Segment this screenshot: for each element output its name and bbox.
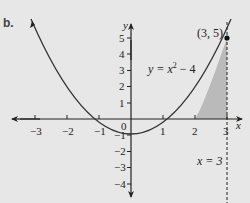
x-tick-label: −2 [62,125,74,137]
y-tick-label: −3 [114,161,126,173]
y-axis-label: y [122,19,128,31]
x-tick-label: −3 [30,125,42,137]
y-tick-label: 4 [119,48,125,60]
y-tick-label: 1 [119,97,125,109]
x-tick-label: 3 [223,125,229,137]
point-label: (3, 5) [197,26,223,40]
x-tick-label: −1 [94,125,106,137]
y-tick-label: 5 [119,32,125,44]
x-tick-label: 1 [160,125,166,137]
y-tick-label: −1 [114,129,126,141]
x-tick-label: 2 [192,125,198,137]
parabola-chart: −3 −2 −1 1 2 3 5 4 3 2 1 0 −1 −2 −3 −4 y… [0,0,250,203]
y-tick-label: 3 [119,64,125,76]
y-tick-label: −2 [114,145,126,157]
curve-equation: y = x2 − 4 [147,61,196,76]
y-tick-label: −4 [114,178,126,190]
x-axis-label: x [235,119,241,131]
y-tick-label: 2 [119,80,125,92]
curve-eq-suffix: − 4 [177,62,196,76]
point-3-5 [224,35,229,40]
vertical-line-label: x = 3 [196,154,222,168]
curve-eq-prefix: y = x [147,62,173,76]
